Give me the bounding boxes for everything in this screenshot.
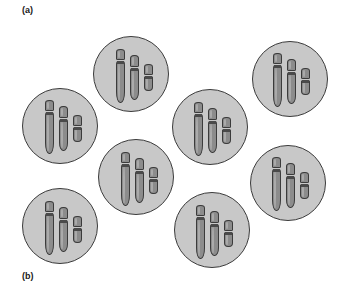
chromosome-short-arm [272, 157, 281, 168]
cell-interior [23, 89, 97, 163]
chromosome-short-arm [224, 220, 233, 231]
chromosome-small [224, 220, 233, 247]
cell-7 [22, 188, 98, 264]
chromosome-long-arm [272, 169, 281, 211]
centromere [197, 217, 203, 220]
chromosome-short-arm [73, 115, 82, 126]
centromere [136, 171, 142, 174]
chromosome-long-arm [135, 171, 144, 203]
chromosome-large [196, 205, 205, 259]
cell-8 [174, 192, 250, 268]
centromere [60, 119, 66, 122]
chromosome-long-arm [45, 112, 54, 154]
chromosome-medium [130, 55, 139, 100]
cell-interior [253, 42, 327, 116]
chromosome-small [144, 64, 153, 91]
chromosome-long-arm [286, 176, 295, 208]
centromere [209, 121, 215, 124]
centromere [46, 112, 52, 115]
centromere [287, 176, 293, 179]
cell-4 [172, 89, 248, 165]
chromosome-large [116, 49, 125, 103]
centromere [131, 68, 137, 71]
panel-label-b: (b) [22, 272, 34, 281]
centromere [302, 80, 308, 83]
chromosome-long-arm [273, 65, 282, 107]
centromere [301, 184, 307, 187]
cell-interior [175, 193, 249, 267]
cell-interior [99, 140, 173, 214]
cell-interior [23, 189, 97, 263]
centromere [74, 127, 80, 130]
chromosome-medium [59, 207, 68, 252]
chromosome-short-arm [300, 172, 309, 183]
chromosome-short-arm [301, 68, 310, 79]
chromosome-short-arm [45, 100, 54, 111]
chromosome-long-arm [208, 121, 217, 153]
centromere [150, 179, 156, 182]
chromosome-short-arm [149, 167, 158, 178]
cell-1 [93, 36, 169, 112]
chromosome-short-arm [144, 64, 153, 75]
chromosome-figure: (a) (b) [0, 0, 339, 293]
cell-interior [173, 90, 247, 164]
chromosome-short-arm [73, 216, 82, 227]
centromere [288, 72, 294, 75]
chromosome-large [45, 201, 54, 255]
chromosome-medium [59, 106, 68, 151]
chromosome-long-arm [287, 72, 296, 104]
chromosome-long-arm [210, 224, 219, 256]
chromosome-short-arm [273, 53, 282, 64]
cell-5 [98, 139, 174, 215]
chromosome-small [149, 167, 158, 194]
chromosome-medium [287, 59, 296, 104]
chromosome-large [273, 53, 282, 107]
chromosome-small [301, 68, 310, 95]
chromosome-short-arm [130, 55, 139, 67]
chromosome-long-arm [130, 68, 139, 100]
chromosome-large [272, 157, 281, 211]
centromere [225, 232, 231, 235]
chromosome-short-arm [116, 49, 125, 60]
centromere [273, 169, 279, 172]
chromosome-small [73, 115, 82, 142]
chromosome-long-arm [59, 220, 68, 252]
cell-interior [94, 37, 168, 111]
chromosome-short-arm [59, 207, 68, 219]
chromosome-short-arm [194, 102, 203, 113]
centromere [60, 220, 66, 223]
chromosome-large [194, 102, 203, 156]
chromosome-small [300, 172, 309, 199]
chromosome-medium [286, 163, 295, 208]
chromosome-short-arm [121, 152, 130, 163]
centromere [274, 65, 280, 68]
chromosome-long-arm [196, 217, 205, 259]
cell-3 [22, 88, 98, 164]
centromere [46, 213, 52, 216]
chromosome-short-arm [45, 201, 54, 212]
chromosome-small [222, 117, 231, 144]
chromosome-small [73, 216, 82, 243]
centromere [117, 61, 123, 64]
centromere [145, 76, 151, 79]
centromere [74, 228, 80, 231]
chromosome-short-arm [59, 106, 68, 118]
cell-interior [251, 146, 325, 220]
chromosome-short-arm [222, 117, 231, 128]
chromosome-long-arm [121, 164, 130, 206]
chromosome-long-arm [59, 119, 68, 151]
chromosome-medium [210, 211, 219, 256]
chromosome-medium [208, 108, 217, 153]
chromosome-large [121, 152, 130, 206]
chromosome-long-arm [45, 213, 54, 255]
chromosome-large [45, 100, 54, 154]
centromere [223, 129, 229, 132]
chromosome-short-arm [287, 59, 296, 71]
chromosome-short-arm [196, 205, 205, 216]
cell-6 [250, 145, 326, 221]
chromosome-medium [135, 158, 144, 203]
panel-label-a: (a) [22, 6, 33, 15]
chromosome-short-arm [208, 108, 217, 120]
chromosome-short-arm [135, 158, 144, 170]
cell-2 [252, 41, 328, 117]
